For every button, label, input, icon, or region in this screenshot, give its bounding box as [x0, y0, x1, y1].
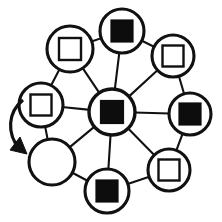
ring-edge-n3-n4	[176, 133, 183, 152]
node-left-hollow-square-marker	[31, 95, 52, 116]
spoke-edge-center-n7	[62, 107, 90, 110]
node-top-left-hollow-square-marker	[59, 38, 81, 60]
center-node[interactable]	[89, 89, 135, 135]
center-node-group	[89, 89, 135, 135]
spoke-edge-center-n4	[127, 128, 155, 156]
node-bottom-filled-square-marker	[96, 180, 118, 202]
node-top-filled-square-marker	[111, 20, 133, 42]
spoke-edge-center-n1	[115, 52, 120, 90]
node-right[interactable]	[169, 93, 211, 135]
node-bottom[interactable]	[85, 169, 129, 213]
node-bottom-left[interactable]	[29, 139, 75, 185]
ring-edge-n7-n8	[51, 69, 60, 87]
node-top-left[interactable]	[47, 26, 93, 72]
ring-edge-n5-n6	[71, 172, 88, 181]
ring-edge-n4-n5	[127, 176, 150, 184]
node-right-filled-square-marker	[179, 103, 201, 125]
spoke-edge-center-n2	[128, 70, 158, 98]
node-top-right-hollow-square-marker	[163, 46, 184, 67]
node-bottom-right-hollow-square-marker	[159, 160, 180, 181]
node-bottom-left-circle[interactable]	[29, 139, 75, 185]
center-node-filled-square-marker	[101, 101, 124, 124]
node-top-right[interactable]	[152, 35, 194, 77]
spoke-edge-center-n5	[108, 134, 110, 170]
network-diagram	[0, 0, 222, 222]
diagram-canvas	[0, 0, 222, 222]
spoke-edge-center-n8	[82, 67, 100, 93]
node-top[interactable]	[100, 9, 144, 53]
spoke-edge-center-n6	[69, 126, 95, 148]
ring-edge-n2-n3	[179, 75, 185, 95]
node-left[interactable]	[19, 83, 63, 127]
spoke-edge-center-n3	[134, 113, 170, 114]
node-bottom-right[interactable]	[148, 149, 190, 191]
